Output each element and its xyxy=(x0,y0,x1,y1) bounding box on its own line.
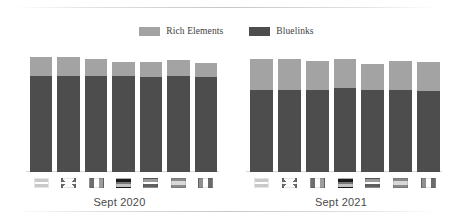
bar-segment-rich-elements xyxy=(57,57,79,76)
bar-segment-rich-elements xyxy=(389,61,412,90)
bar-column xyxy=(167,52,189,172)
bar-column xyxy=(140,52,162,172)
flag-germany-icon xyxy=(338,178,353,188)
bar-column xyxy=(112,52,134,172)
bar-segment-rich-elements xyxy=(306,61,329,90)
bar-segment-bluelinks xyxy=(250,90,273,173)
bar-segment-rich-elements xyxy=(112,62,134,76)
x-axis-flag-cell xyxy=(306,178,329,188)
bar-column xyxy=(30,52,52,172)
bar-series-2020 xyxy=(30,52,217,172)
x-axis-flag-cell xyxy=(334,178,357,188)
bar-segment-bluelinks xyxy=(57,76,79,172)
group-caption-2021: Sept 2021 xyxy=(232,196,450,208)
bar-segment-bluelinks xyxy=(389,90,412,173)
flag-italy-icon xyxy=(198,178,213,188)
bar-segment-bluelinks xyxy=(334,88,357,172)
flag-uk-icon xyxy=(282,178,297,188)
bar-column xyxy=(250,40,273,172)
bar-segment-bluelinks xyxy=(278,90,301,173)
flag-spain-icon xyxy=(171,178,186,188)
bar-segment-rich-elements xyxy=(417,62,440,91)
bar-segment-rich-elements xyxy=(195,63,217,77)
x-axis-flag-cell xyxy=(30,178,52,188)
x-axis-flag-cell xyxy=(57,178,79,188)
bar-column xyxy=(334,40,357,172)
x-axis-flag-cell xyxy=(389,178,412,188)
bar-column xyxy=(57,52,79,172)
x-axis-flags-2021 xyxy=(250,178,440,188)
x-axis-flag-cell xyxy=(417,178,440,188)
x-axis-flag-cell xyxy=(167,178,189,188)
bar-segment-rich-elements xyxy=(85,59,107,76)
flag-france-icon xyxy=(310,178,325,188)
bar-segment-rich-elements xyxy=(140,62,162,78)
bar-segment-bluelinks xyxy=(140,77,162,172)
bar-column xyxy=(278,40,301,172)
chart-panel-sept-2020: 100806040200 Sept 2020 xyxy=(8,0,223,221)
bar-column xyxy=(361,40,384,172)
chart-panel-sept-2021: 120100806040200 Sept 2021 xyxy=(228,0,446,221)
bar-column xyxy=(306,40,329,172)
bar-series-2021 xyxy=(250,40,440,172)
bar-segment-rich-elements xyxy=(361,64,384,89)
bar-segment-bluelinks xyxy=(85,76,107,172)
bar-column xyxy=(389,40,412,172)
bar-column xyxy=(417,40,440,172)
flag-france-icon xyxy=(89,178,104,188)
bar-column xyxy=(195,52,217,172)
bar-segment-rich-elements xyxy=(334,59,357,89)
flag-uk-icon xyxy=(61,178,76,188)
x-axis-flag-cell xyxy=(85,178,107,188)
bar-segment-bluelinks xyxy=(195,77,217,172)
x-axis-flag-cell xyxy=(112,178,134,188)
bar-segment-rich-elements xyxy=(167,60,189,76)
x-axis-flag-cell xyxy=(250,178,273,188)
flag-us-icon xyxy=(254,178,269,188)
flag-italy-icon xyxy=(421,178,436,188)
slide-canvas: Rich Elements Bluelinks 100806040200 Sep… xyxy=(0,0,453,221)
bar-segment-bluelinks xyxy=(417,91,440,172)
bar-segment-bluelinks xyxy=(306,90,329,173)
x-axis-flags-2020 xyxy=(30,178,217,188)
flag-us-icon xyxy=(34,178,49,188)
flag-spain-icon xyxy=(393,178,408,188)
bar-column xyxy=(85,52,107,172)
bar-segment-bluelinks xyxy=(167,76,189,172)
bar-segment-rich-elements xyxy=(278,59,301,90)
bar-segment-rich-elements xyxy=(250,59,273,90)
x-axis-flag-cell xyxy=(140,178,162,188)
flag-netherlands-icon xyxy=(143,178,158,188)
flag-netherlands-icon xyxy=(365,178,380,188)
bar-segment-bluelinks xyxy=(112,76,134,172)
x-axis-flag-cell xyxy=(361,178,384,188)
bar-segment-bluelinks xyxy=(30,76,52,172)
x-axis-flag-cell xyxy=(195,178,217,188)
bar-segment-rich-elements xyxy=(30,57,52,76)
bar-segment-bluelinks xyxy=(361,90,384,173)
group-caption-2020: Sept 2020 xyxy=(12,196,227,208)
flag-germany-icon xyxy=(116,178,131,188)
x-axis-flag-cell xyxy=(278,178,301,188)
